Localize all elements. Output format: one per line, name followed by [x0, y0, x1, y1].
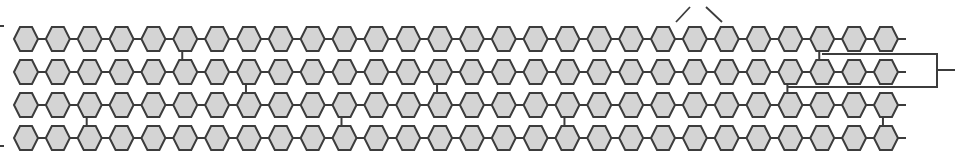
glucose-ring-icon: [810, 27, 834, 51]
glucose-ring-icon: [110, 126, 134, 150]
glucose-ring-icon: [842, 60, 866, 84]
glucose-ring-icon: [141, 126, 165, 150]
glucose-ring-icon: [428, 27, 452, 51]
glucose-ring-icon: [333, 126, 357, 150]
glucose-ring-icon: [173, 126, 197, 150]
glucose-ring-icon: [524, 93, 548, 117]
glucose-ring-icon: [78, 27, 102, 51]
glucose-ring-icon: [460, 93, 484, 117]
glucose-ring-icon: [555, 93, 579, 117]
rings: [14, 27, 898, 150]
glucose-ring-icon: [492, 93, 516, 117]
glucose-ring-icon: [651, 27, 675, 51]
glucose-ring-icon: [492, 126, 516, 150]
glucose-ring-icon: [46, 27, 70, 51]
glucose-ring-icon: [747, 60, 771, 84]
glucose-ring-icon: [460, 126, 484, 150]
label-pointer-line: [706, 7, 722, 22]
glucose-ring-icon: [205, 126, 229, 150]
glucose-ring-icon: [619, 27, 643, 51]
glucose-ring-icon: [396, 93, 420, 117]
glucose-ring-icon: [364, 126, 388, 150]
glucose-ring-icon: [14, 93, 38, 117]
glucose-ring-icon: [555, 27, 579, 51]
glucose-ring-icon: [110, 93, 134, 117]
pointer-lines: [676, 7, 722, 22]
glucose-ring-icon: [619, 93, 643, 117]
glucose-ring-icon: [778, 27, 802, 51]
glucose-ring-icon: [810, 60, 834, 84]
glucose-ring-icon: [874, 27, 898, 51]
glucose-ring-icon: [141, 27, 165, 51]
glucose-ring-icon: [78, 93, 102, 117]
glucose-ring-icon: [555, 60, 579, 84]
glucose-ring-icon: [842, 27, 866, 51]
glucose-ring-icon: [141, 93, 165, 117]
glucose-ring-icon: [492, 27, 516, 51]
glucose-ring-icon: [205, 60, 229, 84]
glucose-ring-icon: [683, 126, 707, 150]
glucose-ring-icon: [651, 60, 675, 84]
glucose-ring-icon: [396, 27, 420, 51]
glucose-ring-icon: [778, 93, 802, 117]
glucose-ring-icon: [715, 126, 739, 150]
glucose-ring-icon: [237, 93, 261, 117]
glucose-ring-icon: [683, 93, 707, 117]
glucose-ring-icon: [810, 93, 834, 117]
glucose-ring-icon: [587, 27, 611, 51]
glucose-ring-icon: [874, 60, 898, 84]
glucose-ring-icon: [651, 126, 675, 150]
glucose-ring-icon: [651, 93, 675, 117]
glucose-ring-icon: [492, 60, 516, 84]
glucose-ring-icon: [747, 27, 771, 51]
glucose-ring-icon: [14, 27, 38, 51]
glucose-ring-icon: [14, 126, 38, 150]
glucose-ring-icon: [301, 60, 325, 84]
edge-ticks: [0, 26, 4, 146]
glucose-ring-icon: [460, 27, 484, 51]
glucose-ring-icon: [683, 60, 707, 84]
glucose-ring-icon: [619, 60, 643, 84]
glucose-ring-icon: [778, 126, 802, 150]
glucose-ring-icon: [715, 93, 739, 117]
cellulose-microfibril-diagram: [0, 0, 957, 167]
glucose-ring-icon: [46, 60, 70, 84]
glucose-ring-icon: [110, 60, 134, 84]
glucose-ring-icon: [46, 93, 70, 117]
glucose-ring-icon: [301, 126, 325, 150]
glucose-ring-icon: [333, 93, 357, 117]
glucose-ring-icon: [587, 126, 611, 150]
glucose-ring-icon: [364, 60, 388, 84]
glucose-ring-icon: [237, 126, 261, 150]
glucose-ring-icon: [460, 60, 484, 84]
glucose-ring-icon: [619, 126, 643, 150]
glucose-ring-icon: [842, 126, 866, 150]
glucose-ring-icon: [524, 27, 548, 51]
glucose-ring-icon: [396, 60, 420, 84]
glucose-ring-icon: [747, 93, 771, 117]
glucose-ring-icon: [205, 93, 229, 117]
glucose-ring-icon: [333, 27, 357, 51]
glucose-ring-icon: [874, 93, 898, 117]
glucose-ring-icon: [78, 126, 102, 150]
glucose-ring-icon: [269, 60, 293, 84]
glucose-ring-icon: [364, 93, 388, 117]
glucose-ring-icon: [110, 27, 134, 51]
glucose-ring-icon: [874, 126, 898, 150]
glucose-ring-icon: [237, 60, 261, 84]
label-pointer-line: [676, 7, 690, 22]
glucose-ring-icon: [428, 126, 452, 150]
glucose-ring-icon: [269, 27, 293, 51]
glucose-ring-icon: [173, 27, 197, 51]
glucose-ring-icon: [333, 60, 357, 84]
glucose-ring-icon: [715, 60, 739, 84]
glucose-ring-icon: [173, 93, 197, 117]
glucose-ring-icon: [205, 27, 229, 51]
glucose-ring-icon: [269, 93, 293, 117]
glucose-ring-icon: [555, 126, 579, 150]
glucose-ring-icon: [428, 60, 452, 84]
chain-bonds: [38, 39, 906, 138]
glucose-ring-icon: [524, 126, 548, 150]
glucose-ring-icon: [428, 93, 452, 117]
glucose-ring-icon: [715, 27, 739, 51]
